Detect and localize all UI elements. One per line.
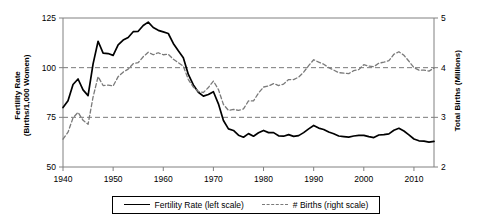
x-axis-tick-label: 1970 (204, 174, 223, 184)
y-axis-left-tick-label: 100 (42, 63, 56, 73)
x-axis-tick-label: 1960 (154, 174, 173, 184)
legend-item-births: # Births (right scale) (262, 200, 369, 210)
x-axis-tick-label: 1990 (304, 174, 323, 184)
chart-legend: Fertility Rate (left scale) # Births (ri… (112, 196, 380, 214)
x-axis-tick-label: 1980 (254, 174, 273, 184)
y-axis-left-tick-label: 50 (47, 162, 57, 172)
legend-label-fertility-rate: Fertility Rate (left scale) (155, 200, 244, 210)
y-axis-right-tick-label: 3 (441, 112, 446, 122)
x-axis-tick-label: 1950 (104, 174, 123, 184)
fertility-births-chart: Fertility Rate (Births/1,000 Women) Tota… (0, 0, 491, 223)
y-axis-right-tick-label: 5 (441, 13, 446, 23)
y-axis-right-tick-label: 2 (441, 162, 446, 172)
legend-label-births: # Births (right scale) (293, 200, 369, 210)
y-axis-left-tick-label: 75 (47, 112, 57, 122)
legend-line-dashed-icon (262, 201, 288, 209)
x-axis-tick-label: 1940 (54, 174, 73, 184)
y-axis-right-tick-label: 4 (441, 63, 446, 73)
plot-area: 5075100125234519401950196019701980199020… (0, 0, 491, 223)
y-axis-left-tick-label: 125 (42, 13, 56, 23)
legend-line-solid-icon (124, 201, 150, 209)
series-line-births (63, 52, 434, 139)
legend-item-fertility-rate: Fertility Rate (left scale) (124, 200, 244, 210)
x-axis-tick-label: 2010 (404, 174, 423, 184)
x-axis-tick-label: 2000 (354, 174, 373, 184)
series-line-fertility-rate (63, 22, 434, 142)
